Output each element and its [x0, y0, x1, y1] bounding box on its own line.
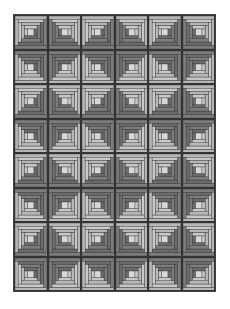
quilt-block	[14, 15, 48, 50]
quilt-block	[14, 188, 48, 223]
quilt-block	[81, 50, 115, 85]
quilt-block	[148, 188, 182, 223]
quilt-block	[48, 188, 82, 223]
quilt-block	[182, 119, 216, 154]
quilt-block	[14, 119, 48, 154]
quilt-block	[81, 188, 115, 223]
quilt-block	[182, 15, 216, 50]
quilt-block	[115, 153, 149, 188]
quilt-block	[182, 222, 216, 257]
log-cabin-quilt	[13, 14, 216, 292]
quilt-block	[115, 84, 149, 119]
quilt-block	[48, 84, 82, 119]
quilt-block	[182, 50, 216, 85]
quilt-block	[148, 50, 182, 85]
quilt-block	[81, 153, 115, 188]
quilt-block	[48, 222, 82, 257]
quilt-block	[148, 153, 182, 188]
quilt-block	[14, 50, 48, 85]
quilt-block	[48, 257, 82, 292]
quilt-block	[48, 119, 82, 154]
quilt-block	[81, 222, 115, 257]
quilt-block	[48, 153, 82, 188]
quilt-block	[148, 222, 182, 257]
quilt-block	[148, 119, 182, 154]
quilt-block	[148, 84, 182, 119]
quilt-block	[81, 84, 115, 119]
quilt-block	[182, 84, 216, 119]
quilt-block	[14, 222, 48, 257]
quilt-block	[115, 188, 149, 223]
quilt-block	[81, 257, 115, 292]
quilt-block	[148, 15, 182, 50]
quilt-block	[115, 50, 149, 85]
quilt-block	[14, 84, 48, 119]
quilt-block	[182, 257, 216, 292]
quilt-block	[81, 15, 115, 50]
quilt-block	[14, 153, 48, 188]
quilt-block	[48, 50, 82, 85]
quilt-block	[81, 119, 115, 154]
quilt-block	[115, 15, 149, 50]
quilt-block	[182, 188, 216, 223]
quilt-block	[115, 119, 149, 154]
quilt-block	[115, 222, 149, 257]
quilt-block	[115, 257, 149, 292]
quilt-block	[182, 153, 216, 188]
quilt-block	[48, 15, 82, 50]
quilt-block	[148, 257, 182, 292]
quilt-block	[14, 257, 48, 292]
